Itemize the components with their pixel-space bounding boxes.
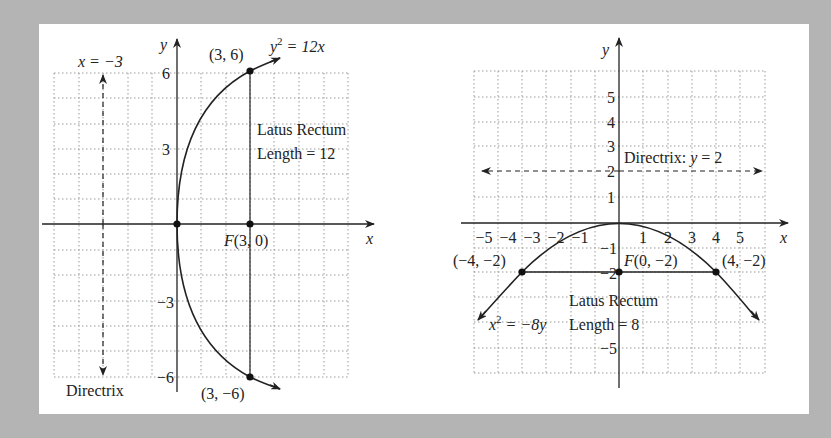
y-tick-neg2: −2	[600, 265, 617, 282]
point-4-neg2	[712, 268, 719, 275]
x-axis-label-right: x	[779, 229, 787, 246]
y-tick-neg3: −3	[157, 294, 174, 311]
point-label-4-neg2: (4, −2)	[722, 252, 766, 270]
y-tick-4: 4	[607, 114, 615, 131]
x-tick-neg2: −2	[547, 229, 564, 246]
point-label-3-6: (3, 6)	[209, 46, 244, 64]
point-3-6	[246, 67, 253, 74]
latus-length-label-left: Length = 12	[257, 145, 335, 163]
point-vertex-left	[173, 220, 180, 227]
point-neg4-neg2	[518, 268, 525, 275]
x-tick-4: 4	[712, 229, 720, 246]
directrix-label-right: Directrix: y = 2	[624, 149, 722, 167]
x-tick-2: 2	[664, 229, 672, 246]
x-tick-5: 5	[736, 229, 744, 246]
point-label-neg4-neg2: (−4, −2)	[453, 252, 506, 270]
y-tick-neg1: −1	[600, 240, 617, 257]
y-tick-1: 1	[607, 189, 615, 206]
y-tick-5: 5	[607, 89, 615, 106]
equation-label-right: x2 = −8y	[488, 313, 547, 334]
latus-length-label-right: Length = 8	[569, 316, 639, 334]
latus-rectum-label-left: Latus Rectum	[257, 121, 347, 138]
directrix-label-left: Directrix	[66, 382, 124, 399]
x-axis-label-left: x	[365, 230, 373, 247]
x-tick-1: 1	[639, 229, 647, 246]
y-tick-6: 6	[162, 65, 170, 82]
y-tick-3: 3	[162, 141, 170, 158]
y-tick-neg5: −5	[600, 340, 617, 357]
focus-label-left: F(3, 0)	[223, 232, 268, 250]
chart-left: y x 6 3 −3 −6 x = −3 Directrix (3, 6) (3…	[42, 35, 374, 403]
chart-right: y x 5 4 3 2 1 −1 −2 −5 −5 −4 −3 −2 −1 1 …	[453, 38, 788, 388]
point-3-neg6	[246, 373, 253, 380]
latus-rectum-label-right: Latus Rectum	[569, 292, 659, 309]
equation-label-left: y2 = 12x	[268, 35, 325, 56]
x-tick-neg5: −5	[475, 229, 492, 246]
point-label-3-neg6: (3, −6)	[201, 385, 245, 403]
focus-label-right: F(0, −2)	[623, 252, 677, 270]
y-axis-label-right: y	[600, 41, 610, 59]
y-axis-label-left: y	[158, 36, 168, 54]
point-focus-left	[246, 220, 253, 227]
y-tick-2: 2	[607, 163, 615, 180]
parabola-figures: y x 6 3 −3 −6 x = −3 Directrix (3, 6) (3…	[0, 0, 831, 438]
x-tick-neg3: −3	[523, 229, 540, 246]
y-tick-3: 3	[607, 138, 615, 155]
x-tick-neg4: −4	[499, 229, 516, 246]
x-tick-3: 3	[688, 229, 696, 246]
directrix-equation-left: x = −3	[77, 53, 123, 70]
x-tick-neg1: −1	[571, 229, 588, 246]
y-tick-neg6: −6	[157, 369, 174, 386]
